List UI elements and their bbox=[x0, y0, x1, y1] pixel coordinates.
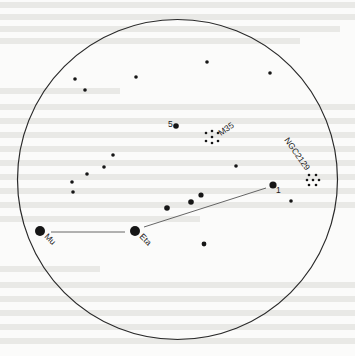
ngc2129-label: NGC2129 bbox=[282, 135, 312, 172]
star bbox=[198, 192, 203, 197]
cluster-star bbox=[217, 140, 220, 143]
star bbox=[102, 165, 106, 169]
cluster-star bbox=[318, 179, 321, 182]
cluster-star bbox=[315, 174, 318, 177]
star bbox=[164, 205, 170, 211]
cluster-star bbox=[211, 136, 214, 139]
cluster-star bbox=[205, 132, 208, 135]
star bbox=[268, 71, 272, 75]
star bbox=[85, 172, 89, 176]
star bbox=[234, 164, 238, 168]
star bbox=[202, 242, 207, 247]
star-mu-label: Mu bbox=[43, 231, 59, 247]
star-1-label: 1 bbox=[276, 185, 281, 195]
star bbox=[111, 153, 115, 157]
star bbox=[70, 180, 74, 184]
star-mu bbox=[35, 226, 45, 236]
star bbox=[134, 75, 138, 79]
m35-label: M35 bbox=[216, 120, 236, 138]
star-eta bbox=[130, 226, 140, 236]
star bbox=[188, 199, 194, 205]
cluster-star bbox=[308, 184, 311, 187]
ngc2129-cluster bbox=[306, 174, 321, 187]
star bbox=[71, 190, 75, 194]
field-of-view-circle bbox=[18, 20, 338, 340]
star-5-label: 5 bbox=[168, 119, 173, 129]
cluster-star bbox=[308, 174, 311, 177]
cluster-star bbox=[306, 179, 309, 182]
star bbox=[83, 88, 87, 92]
cluster-star bbox=[312, 179, 315, 182]
star-5 bbox=[173, 123, 179, 129]
star-chart: 51EtaMuM35NGC2129 bbox=[0, 0, 355, 356]
star-eta-label: Eta bbox=[138, 231, 154, 247]
star bbox=[73, 77, 77, 81]
cluster-star bbox=[315, 184, 318, 187]
pointer-line bbox=[144, 188, 266, 227]
star bbox=[289, 199, 293, 203]
cluster-star bbox=[205, 140, 208, 143]
cluster-star bbox=[211, 130, 214, 133]
cluster-star bbox=[211, 142, 214, 145]
star bbox=[205, 60, 209, 64]
